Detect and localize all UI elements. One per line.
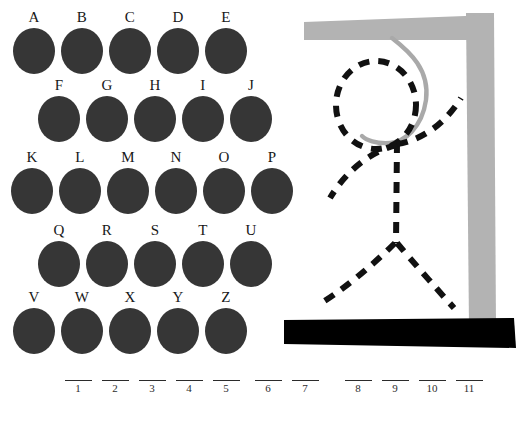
letter-key-b[interactable]: B: [58, 10, 106, 82]
letter-key-c[interactable]: C: [106, 10, 154, 82]
answer-blank-line: [345, 380, 372, 381]
letter-key-row: ABCDE: [10, 10, 250, 82]
answer-blank-3: 3: [136, 380, 168, 394]
answer-blank-line: [292, 380, 319, 381]
letter-key-label: V: [28, 290, 39, 306]
answer-word-group: 67: [252, 380, 326, 394]
letter-key-label: K: [26, 150, 37, 166]
letter-key-dot[interactable]: [205, 308, 247, 354]
letter-key-dot[interactable]: [134, 241, 176, 287]
answer-blank-number: 4: [186, 382, 192, 394]
letter-key-i[interactable]: I: [179, 78, 227, 150]
letter-key-z[interactable]: Z: [202, 290, 250, 362]
letter-key-k[interactable]: K: [8, 150, 56, 222]
letter-key-dot[interactable]: [203, 168, 245, 214]
letter-key-label: B: [77, 10, 87, 26]
letter-key-label: O: [218, 150, 229, 166]
letter-key-dot[interactable]: [107, 168, 149, 214]
letter-key-u[interactable]: U: [227, 223, 275, 295]
letter-key-label: F: [55, 78, 64, 94]
answer-blank-line: [65, 380, 92, 381]
answer-blank-4: 4: [173, 380, 205, 394]
letter-key-a[interactable]: A: [10, 10, 58, 82]
answer-blank-2: 2: [99, 380, 131, 394]
letter-key-l[interactable]: L: [56, 150, 104, 222]
answer-blank-line: [176, 380, 203, 381]
letter-key-label: G: [101, 78, 112, 94]
letter-key-n[interactable]: N: [152, 150, 200, 222]
letter-key-o[interactable]: O: [200, 150, 248, 222]
letter-key-t[interactable]: T: [179, 223, 227, 295]
gallows-base-shape: [284, 318, 516, 348]
answer-blank-9: 9: [379, 380, 411, 394]
answer-blank-number: 8: [355, 382, 361, 394]
letter-key-dot[interactable]: [230, 96, 272, 142]
letter-key-dot[interactable]: [230, 241, 272, 287]
answer-blank-1: 1: [62, 380, 94, 394]
letter-key-dot[interactable]: [86, 96, 128, 142]
letter-key-label: N: [170, 150, 181, 166]
letter-key-g[interactable]: G: [83, 78, 131, 150]
letter-key-dot[interactable]: [59, 168, 101, 214]
letter-key-label: A: [28, 10, 39, 26]
letter-key-y[interactable]: Y: [154, 290, 202, 362]
letter-key-dot[interactable]: [13, 308, 55, 354]
letter-key-dot[interactable]: [38, 96, 80, 142]
letter-key-x[interactable]: X: [106, 290, 154, 362]
letter-key-d[interactable]: D: [154, 10, 202, 82]
figure-left-leg-shape: [323, 243, 395, 302]
answer-blank-11: 11: [453, 380, 485, 394]
letter-key-label: R: [102, 223, 112, 239]
letter-key-label: I: [200, 78, 205, 94]
answer-blank-number: 3: [149, 382, 155, 394]
answer-blank-10: 10: [416, 380, 448, 394]
letter-key-label: E: [221, 10, 230, 26]
letter-key-dot[interactable]: [205, 28, 247, 74]
figure-right-leg-shape: [397, 243, 454, 308]
letter-key-label: Z: [221, 290, 230, 306]
letter-key-f[interactable]: F: [35, 78, 83, 150]
figure-body-shape: [396, 142, 397, 243]
letter-key-r[interactable]: R: [83, 223, 131, 295]
letter-key-dot[interactable]: [182, 241, 224, 287]
letter-key-dot[interactable]: [11, 168, 53, 214]
answer-word-group: 12345: [62, 380, 247, 394]
answer-blank-line: [213, 380, 240, 381]
letter-key-label: L: [75, 150, 84, 166]
letter-key-m[interactable]: M: [104, 150, 152, 222]
letter-key-dot[interactable]: [157, 308, 199, 354]
letter-key-row: QRSTU: [35, 223, 275, 295]
letter-key-label: U: [245, 223, 256, 239]
answer-blank-number: 1: [75, 382, 81, 394]
letter-key-dot[interactable]: [155, 168, 197, 214]
answer-blank-7: 7: [289, 380, 321, 394]
answer-blank-number: 7: [302, 382, 308, 394]
letter-key-dot[interactable]: [182, 96, 224, 142]
letter-key-dot[interactable]: [109, 308, 151, 354]
answer-blank-line: [255, 380, 282, 381]
letter-key-dot[interactable]: [38, 241, 80, 287]
letter-key-dot[interactable]: [61, 308, 103, 354]
answer-blank-number: 2: [112, 382, 118, 394]
letter-key-s[interactable]: S: [131, 223, 179, 295]
letter-key-w[interactable]: W: [58, 290, 106, 362]
answer-blank-number: 9: [392, 382, 398, 394]
letter-key-q[interactable]: Q: [35, 223, 83, 295]
letter-key-dot[interactable]: [13, 28, 55, 74]
answer-blank-line: [382, 380, 409, 381]
letter-key-label: D: [172, 10, 183, 26]
letter-key-j[interactable]: J: [227, 78, 275, 150]
letter-key-dot[interactable]: [61, 28, 103, 74]
letter-key-dot[interactable]: [86, 241, 128, 287]
letter-key-row: KLMNOP: [8, 150, 296, 222]
letter-key-h[interactable]: H: [131, 78, 179, 150]
letter-key-row: VWXYZ: [10, 290, 250, 362]
letter-key-dot[interactable]: [134, 96, 176, 142]
figure-left-arm-shape: [330, 145, 397, 198]
letter-key-dot[interactable]: [109, 28, 151, 74]
letter-key-label: H: [149, 78, 160, 94]
answer-blank-line: [139, 380, 166, 381]
letter-key-dot[interactable]: [157, 28, 199, 74]
letter-key-e[interactable]: E: [202, 10, 250, 82]
letter-key-v[interactable]: V: [10, 290, 58, 362]
